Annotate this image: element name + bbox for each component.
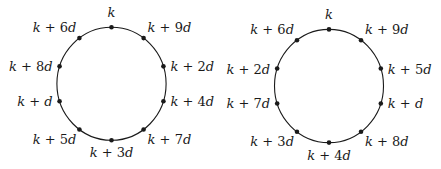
point-label: k + 9d [365,22,409,37]
point-dot [327,27,332,32]
point-label: k + 4d [307,148,351,163]
point-dot [77,127,82,132]
point-dot [275,66,280,71]
point-dot [327,140,332,145]
point-dot [275,101,280,106]
right-circle-diagram: kk + 9dk + 5dk + dk + 8dk + 4dk + 3dk + … [226,7,431,162]
point-label: k + d [17,94,52,109]
point-dot [359,129,364,134]
point-dot [141,36,146,41]
point-label: k + d [388,96,423,111]
point-label: k [108,5,116,20]
circular-arrangement-figure: kk + 9dk + 2dk + 4dk + 7dk + 3dk + 5dk +… [0,0,441,169]
point-label: k + 3d [90,145,134,160]
point-dot [109,138,114,143]
point-label: k + 5d [33,132,77,147]
point-dot [77,36,82,41]
point-dot [57,64,62,69]
point-dot [295,38,300,43]
point-label: k + 4d [170,94,214,109]
point-label: k + 2d [226,62,270,77]
point-label: k + 8d [365,134,409,149]
point-dot [295,129,300,134]
point-dot [57,99,62,104]
left-circle-ring [57,27,166,140]
point-dot [379,66,384,71]
point-dot [161,64,166,69]
point-dot [379,101,384,106]
point-label: k + 6d [250,22,294,37]
point-label: k + 7d [226,96,270,111]
point-dot [141,127,146,132]
point-dot [109,25,114,30]
point-label: k + 9d [148,20,192,35]
point-dot [161,99,166,104]
point-label: k + 3d [250,134,294,149]
point-label: k + 7d [148,132,192,147]
point-label: k + 8d [9,59,53,74]
point-label: k + 5d [388,62,432,77]
point-label: k [325,7,333,22]
right-circle-ring [275,29,384,142]
point-label: k + 6d [33,20,77,35]
left-circle-diagram: kk + 9dk + 2dk + 4dk + 7dk + 3dk + 5dk +… [9,5,214,160]
point-dot [359,38,364,43]
point-label: k + 2d [170,59,214,74]
